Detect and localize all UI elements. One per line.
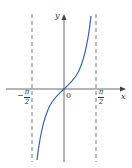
y-axis-label: y [55, 12, 60, 20]
x-axis-label: x [121, 93, 126, 101]
y-axis-arrow-icon [62, 14, 67, 20]
two-denominator: 2 [25, 99, 29, 106]
minus-sign: − [17, 92, 24, 100]
x-axis-arrow-icon [120, 87, 126, 92]
tangent-plot [0, 0, 132, 168]
pi-numerator: π [25, 89, 30, 96]
two-denominator: 2 [99, 99, 103, 106]
pi-over-2-label: π 2 [98, 89, 104, 106]
origin-label: 0 [66, 92, 71, 100]
neg-pi-over-2-label: π 2 [24, 89, 30, 106]
pi-numerator: π [99, 89, 104, 96]
